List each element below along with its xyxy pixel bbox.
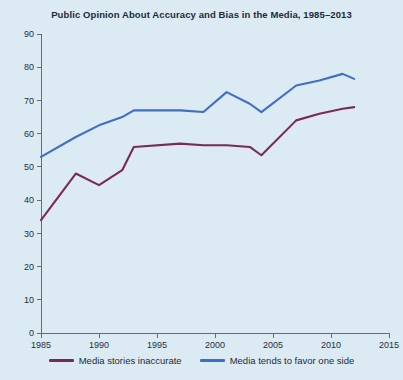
y-tick-label: 40 bbox=[24, 195, 34, 205]
x-tick-label: 2015 bbox=[379, 340, 399, 350]
line-chart-plot: 0102030405060708090 19851990199520002005… bbox=[0, 0, 403, 380]
y-tick-label: 90 bbox=[24, 29, 34, 39]
x-tick-label: 2000 bbox=[205, 340, 225, 350]
legend-entry: Media stories inaccurate bbox=[49, 355, 182, 366]
y-tick-label: 30 bbox=[24, 229, 34, 239]
y-tick-label: 10 bbox=[24, 295, 34, 305]
x-tick-label: 1985 bbox=[31, 340, 51, 350]
y-axis-tick-labels: 0102030405060708090 bbox=[24, 29, 34, 338]
chart-figure: Public Opinion About Accuracy and Bias i… bbox=[0, 0, 403, 380]
x-tick-label: 1990 bbox=[89, 340, 109, 350]
legend-label: Media tends to favor one side bbox=[230, 355, 355, 366]
legend-entry: Media tends to favor one side bbox=[200, 355, 355, 366]
x-tick-label: 1995 bbox=[147, 340, 167, 350]
y-tick-label: 0 bbox=[29, 328, 34, 338]
legend-color-swatch bbox=[49, 359, 74, 362]
y-tick-label: 20 bbox=[24, 262, 34, 272]
chart-legend: Media stories inaccurateMedia tends to f… bbox=[0, 355, 403, 366]
x-axis-tick-marks bbox=[41, 333, 389, 338]
x-tick-label: 2005 bbox=[263, 340, 283, 350]
x-tick-label: 2010 bbox=[321, 340, 341, 350]
y-tick-label: 80 bbox=[24, 62, 34, 72]
y-tick-label: 50 bbox=[24, 162, 34, 172]
y-tick-label: 70 bbox=[24, 96, 34, 106]
legend-color-swatch bbox=[200, 359, 225, 362]
axis-frame bbox=[41, 34, 389, 333]
series-line-inaccurate bbox=[41, 107, 354, 220]
data-series-group bbox=[41, 74, 354, 220]
legend-label: Media stories inaccurate bbox=[79, 355, 182, 366]
y-tick-label: 60 bbox=[24, 129, 34, 139]
x-axis-tick-labels: 1985199019952000200520102015 bbox=[31, 340, 399, 350]
y-axis-tick-marks bbox=[37, 34, 41, 333]
